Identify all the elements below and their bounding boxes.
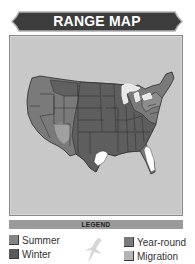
legend-item-year-round: Year-round xyxy=(124,236,186,248)
page-title: RANGE MAP xyxy=(11,11,183,32)
range-map-banner: RANGE MAP xyxy=(11,11,183,32)
summer-swatch xyxy=(9,235,19,245)
legend-item-summer: Summer xyxy=(9,234,60,246)
legend-label-winter: Winter xyxy=(22,249,51,260)
legend-header: LEGEND xyxy=(9,220,183,229)
legend-label-migration: Migration xyxy=(137,251,178,262)
winter-swatch xyxy=(9,249,19,259)
migration-swatch xyxy=(124,251,134,261)
year-round-swatch xyxy=(124,237,134,247)
legend-item-winter: Winter xyxy=(9,248,51,260)
bird-silhouette-icon xyxy=(78,234,110,264)
legend-label-year-round: Year-round xyxy=(137,237,186,248)
legend-item-migration: Migration xyxy=(124,250,178,262)
range-map xyxy=(9,35,183,216)
legend-label-summer: Summer xyxy=(22,235,60,246)
us-map xyxy=(10,36,184,217)
